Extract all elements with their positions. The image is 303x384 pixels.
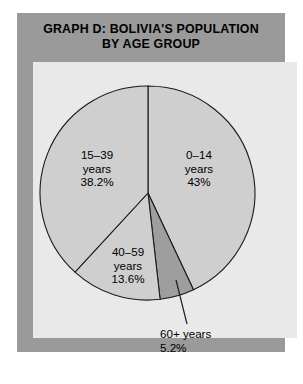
pie-label-0-14: 0–14 years 43% <box>170 148 228 189</box>
pie-label-40-59: 40–59 years 13.6% <box>95 245 161 286</box>
pie-label-15-39: 15–39 years 38.2% <box>62 148 132 189</box>
pie-label-60-plus: 60+ years 5.2% <box>160 327 270 354</box>
figure-root: GRAPH D: BOLIVIA'S POPULATION BY AGE GRO… <box>0 0 303 384</box>
